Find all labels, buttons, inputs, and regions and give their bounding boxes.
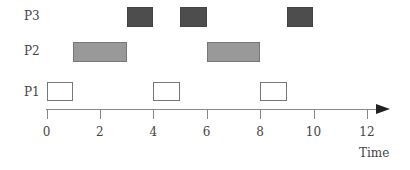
bar-p2 xyxy=(207,42,260,62)
x-axis-label: Time xyxy=(359,146,389,160)
bar-p2 xyxy=(73,42,126,62)
bar-p3 xyxy=(180,7,207,27)
x-tick xyxy=(100,110,101,119)
x-tick xyxy=(153,110,154,119)
bar-p1 xyxy=(47,82,74,101)
x-tick xyxy=(260,110,261,119)
x-tick xyxy=(314,110,315,119)
row-label-p3: P3 xyxy=(24,9,40,23)
x-tick-label: 2 xyxy=(90,125,110,139)
time-axis xyxy=(46,109,378,110)
bar-p3 xyxy=(287,7,314,27)
x-tick-label: 10 xyxy=(304,125,324,139)
x-tick-label: 0 xyxy=(37,125,57,139)
x-tick xyxy=(47,110,48,119)
x-tick xyxy=(207,110,208,119)
axis-arrow-icon xyxy=(376,104,390,114)
row-label-p2: P2 xyxy=(24,44,40,58)
x-tick-label: 8 xyxy=(250,125,270,139)
x-tick xyxy=(367,110,368,119)
x-tick-label: 4 xyxy=(143,125,163,139)
bar-p1 xyxy=(260,82,287,101)
row-label-p1: P1 xyxy=(24,85,40,99)
bar-p1 xyxy=(153,82,180,101)
x-tick-label: 6 xyxy=(197,125,217,139)
x-tick-label: 12 xyxy=(357,125,377,139)
bar-p3 xyxy=(127,7,154,27)
